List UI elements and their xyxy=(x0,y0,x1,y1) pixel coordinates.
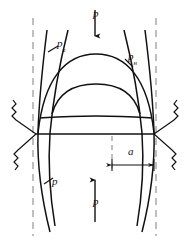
label-load-bottom: p xyxy=(93,196,99,207)
spring-right-upper-icon xyxy=(174,100,178,120)
curve-right-steep xyxy=(142,30,154,232)
label-curve-pn-subscript: н xyxy=(134,59,137,67)
curve-lens-bottom xyxy=(40,116,152,118)
curve-inner-left xyxy=(49,30,68,226)
support-left xyxy=(12,100,36,170)
spring-left-lower-icon xyxy=(14,150,18,170)
spring-right-lower-icon xyxy=(172,150,176,170)
label-curve-pn: pн xyxy=(128,51,137,65)
figure-container: p p pв pн p a xyxy=(0,0,193,250)
label-dimension-a: a xyxy=(128,146,134,157)
label-curve-pn-base: p xyxy=(128,50,134,62)
label-curve-pv-subscript: в xyxy=(63,46,66,54)
support-right-lower-link xyxy=(154,134,172,150)
arch-inner xyxy=(52,84,140,114)
label-curve-pv: pв xyxy=(57,38,66,52)
label-curve-pv-base: p xyxy=(57,37,63,49)
curve-left-steep xyxy=(38,30,50,232)
support-right xyxy=(154,100,178,170)
support-right-upper-link xyxy=(154,120,174,134)
label-curve-p-lower: p xyxy=(52,176,58,187)
diagram-canvas xyxy=(0,0,193,250)
label-load-top: p xyxy=(93,8,99,19)
spring-left-upper-icon xyxy=(12,100,16,120)
